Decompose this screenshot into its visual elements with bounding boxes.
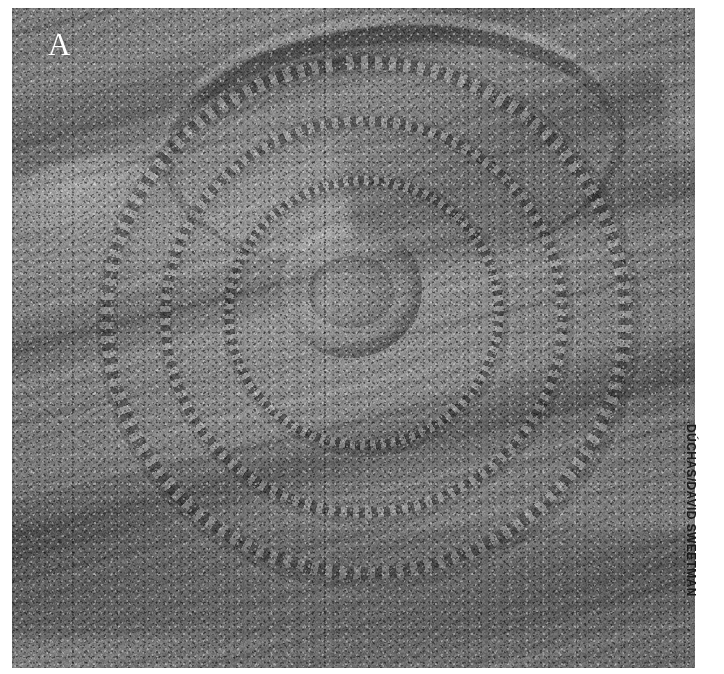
panel-label: A bbox=[48, 29, 70, 60]
figure-root: A DÚCHAS/DAVID SWEETMAN bbox=[0, 0, 724, 674]
rock-grain-fine bbox=[12, 8, 695, 668]
photo-credit: DÚCHAS/DAVID SWEETMAN bbox=[684, 424, 697, 660]
fossil-photograph: A bbox=[12, 8, 695, 668]
